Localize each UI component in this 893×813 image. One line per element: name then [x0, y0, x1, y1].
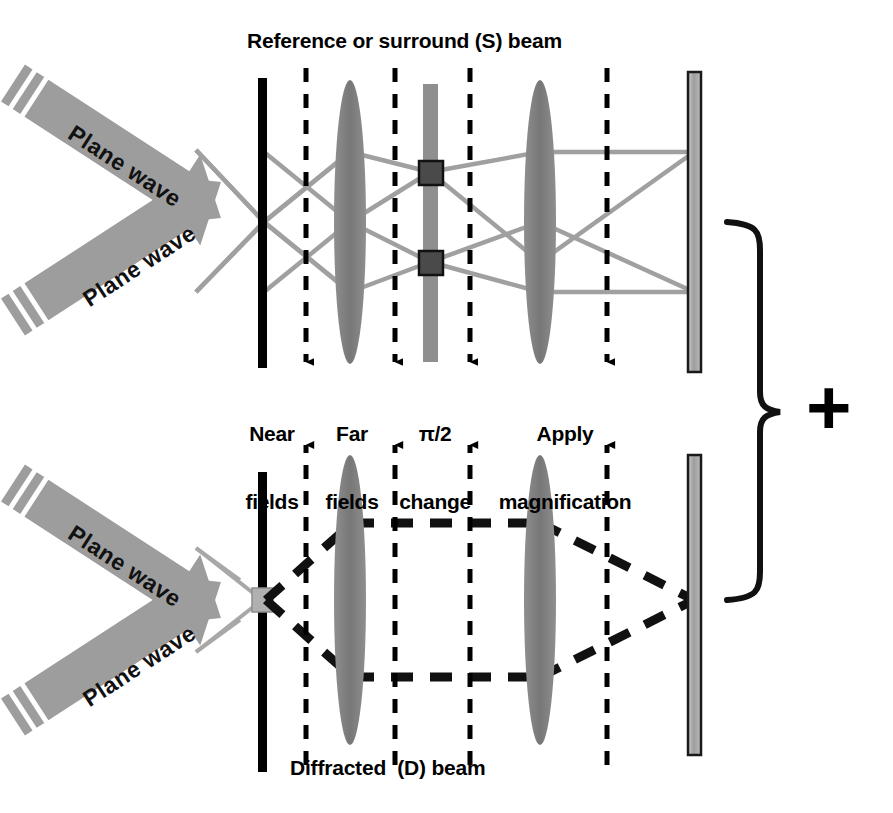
step-apply-magnification-line2: magnification	[477, 491, 653, 514]
objective-lens-top	[334, 80, 366, 364]
step-apply-magnification: Apply magnification	[477, 378, 653, 559]
surround-rays	[196, 150, 694, 292]
imaging-lens-top	[524, 80, 556, 364]
sample-bar-top	[258, 78, 267, 368]
diffracted-beam-title: Diffracted (D) beam	[290, 757, 486, 780]
detector-screen-top	[688, 72, 701, 372]
combine-plus-symbol: +	[806, 368, 852, 446]
detector-screen-bottom	[688, 455, 701, 755]
combine-brace	[727, 222, 780, 600]
surround-beam-title: Reference or surround (S) beam	[247, 30, 562, 53]
step-pi-change-line1: π/2	[385, 423, 485, 446]
figure-canvas: Plane wave Plane wave Plane wave Plane w…	[0, 0, 893, 813]
step-pi-over-two-change: π/2 change	[385, 378, 485, 559]
step-pi-change-line2: change	[385, 491, 485, 514]
phase-plate-patch-upper	[419, 161, 443, 185]
surround-beam-group	[0, 48, 701, 372]
phase-plate-patch-lower	[419, 251, 443, 275]
step-apply-magnification-line1: Apply	[477, 423, 653, 446]
phase-plate	[423, 84, 438, 362]
